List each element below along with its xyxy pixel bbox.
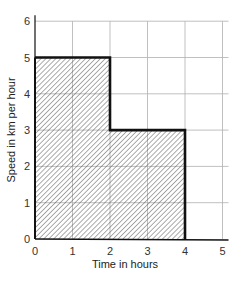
x-tick-label: 0 bbox=[32, 245, 38, 257]
x-tick-label: 4 bbox=[182, 245, 188, 257]
y-tick-labels: 0123456 bbox=[24, 15, 30, 245]
x-tick-label: 2 bbox=[107, 245, 113, 257]
x-tick-labels: 012345 bbox=[32, 245, 226, 257]
y-axis-label: Speed in km per hour bbox=[5, 77, 17, 183]
x-tick-label: 3 bbox=[144, 245, 150, 257]
x-tick-label: 5 bbox=[219, 245, 225, 257]
x-tick-label: 1 bbox=[69, 245, 75, 257]
x-axis bbox=[35, 239, 229, 240]
y-tick-label: 1 bbox=[24, 197, 30, 209]
y-tick-label: 0 bbox=[24, 233, 30, 245]
x-axis-label: Time in hours bbox=[92, 258, 159, 270]
y-tick-label: 5 bbox=[24, 52, 30, 64]
y-tick-label: 6 bbox=[24, 15, 30, 27]
y-tick-label: 4 bbox=[24, 88, 30, 100]
y-tick-label: 3 bbox=[24, 124, 30, 136]
speed-time-chart: 012345 0123456 Time in hours Speed in km… bbox=[0, 0, 243, 283]
y-tick-label: 2 bbox=[24, 160, 30, 172]
